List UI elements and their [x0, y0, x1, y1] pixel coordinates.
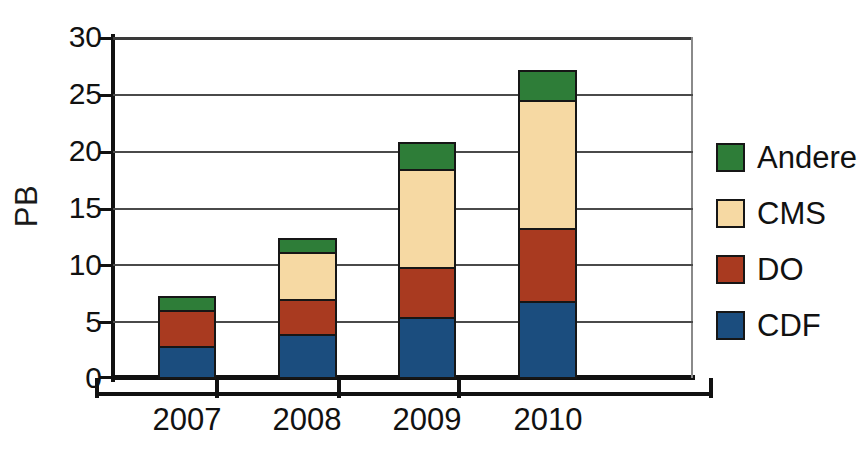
x-tick-mark-start [95, 378, 99, 398]
y-tick-label-5: 5 [46, 307, 102, 337]
y-tick-label-25: 25 [46, 79, 102, 109]
bar-segment-cms-2009[interactable] [398, 169, 456, 269]
x-axis-baseline [95, 392, 713, 396]
x-tick-label-2008: 2008 [242, 403, 372, 437]
y-tick-label-15: 15 [46, 193, 102, 223]
x-tick-label-2009: 2009 [362, 403, 492, 437]
bar-segment-andere-2007[interactable] [158, 296, 216, 312]
bar-segment-cms-2008[interactable] [278, 252, 337, 301]
bar-segment-cdf-2010[interactable] [518, 301, 577, 379]
x-tick-mark-3 [457, 378, 461, 398]
bar-segment-andere-2009[interactable] [398, 142, 456, 171]
y-tick-label-10: 10 [46, 250, 102, 280]
plot-area [113, 37, 693, 378]
legend-swatch-cms [716, 199, 745, 228]
legend-swatch-cdf [716, 311, 745, 340]
legend-label-andere: Andere [757, 142, 857, 173]
bar-segment-cdf-2007[interactable] [158, 346, 216, 379]
legend-label-cms: CMS [757, 198, 826, 229]
y-tick-label-30: 30 [46, 22, 102, 52]
bar-segment-andere-2008[interactable] [278, 238, 337, 254]
legend-item-andere[interactable]: Andere [716, 140, 857, 174]
bar-2009[interactable] [398, 37, 456, 378]
legend-swatch-do [716, 255, 745, 284]
bar-segment-do-2007[interactable] [158, 310, 216, 348]
stacked-bar-chart: PB 30 25 20 15 10 5 0 2007 [0, 0, 862, 475]
y-tick-label-20: 20 [46, 136, 102, 166]
y-tick-label-0: 0 [46, 363, 102, 393]
legend-item-cdf[interactable]: CDF [716, 308, 821, 342]
x-tick-label-2010: 2010 [483, 403, 613, 437]
legend-item-do[interactable]: DO [716, 252, 804, 286]
x-tick-mark-end [709, 378, 713, 398]
bar-segment-do-2009[interactable] [398, 267, 456, 319]
bar-segment-andere-2010[interactable] [518, 70, 577, 102]
y-axis-title: PB [9, 161, 45, 251]
bar-2007[interactable] [158, 37, 216, 378]
bar-segment-do-2008[interactable] [278, 299, 337, 336]
y-axis-tick-labels: 30 25 20 15 10 5 0 [44, 0, 102, 475]
bar-segment-cdf-2009[interactable] [398, 317, 456, 379]
bar-2010[interactable] [518, 37, 577, 378]
x-tick-mark-1 [215, 378, 219, 398]
legend-item-cms[interactable]: CMS [716, 196, 826, 230]
bar-2008[interactable] [278, 37, 337, 378]
legend-label-cdf: CDF [757, 310, 821, 341]
legend-swatch-andere [716, 143, 745, 172]
x-tick-mark-2 [337, 378, 341, 398]
bar-segment-cms-2010[interactable] [518, 100, 577, 230]
bar-segment-cdf-2008[interactable] [278, 334, 337, 379]
bar-segment-do-2010[interactable] [518, 228, 577, 303]
legend-label-do: DO [757, 254, 804, 285]
x-tick-label-2007: 2007 [122, 403, 252, 437]
